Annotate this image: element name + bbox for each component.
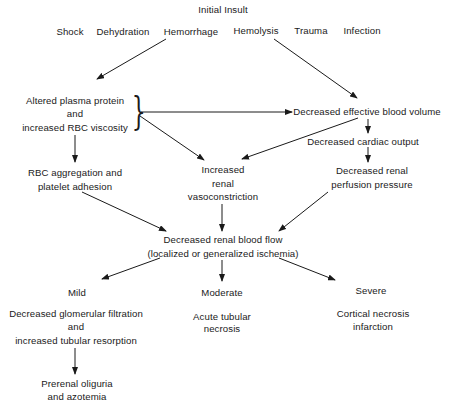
node-line: increased RBC viscosity: [22, 121, 128, 134]
node-line: platelet adhesion: [38, 180, 112, 193]
node-line: Decreased glomerular filtration: [9, 307, 143, 320]
node-decreased-cardiac-output: Decreased cardiac output: [307, 135, 419, 148]
node-line: Increased: [201, 163, 244, 176]
severity-mild: Mild: [68, 286, 86, 299]
node-line: and azotemia: [48, 390, 107, 403]
diagram-title: Initial Insult: [198, 3, 247, 16]
severity-severe: Severe: [356, 284, 387, 297]
node-line: Prerenal oliguria: [41, 377, 113, 390]
node-line: infarction: [353, 320, 393, 333]
cause-hemolysis: Hemolysis: [233, 24, 278, 37]
node-line: vasoconstriction: [188, 190, 258, 203]
node-line: necrosis: [204, 322, 241, 335]
node-line: and: [68, 320, 84, 333]
cause-infection: Infection: [343, 24, 380, 37]
severity-moderate: Moderate: [201, 286, 242, 299]
node-line: and: [67, 107, 83, 120]
brace-icon: }: [132, 90, 146, 130]
node-line: (localized or generalized ischemia): [147, 247, 298, 260]
node-line: Altered plasma protein: [26, 94, 124, 107]
cause-trauma: Trauma: [294, 24, 327, 37]
node-line: increased tubular resorption: [15, 334, 137, 347]
cause-shock: Shock: [56, 25, 83, 38]
node-line: Decreased renal blood flow: [164, 233, 283, 246]
node-line: RBC aggregation and: [28, 166, 122, 179]
node-line: Cortical necrosis: [337, 307, 410, 320]
cause-hemorrhage: Hemorrhage: [164, 25, 218, 38]
node-decreased-effective-blood-volume: Decreased effective blood volume: [293, 105, 441, 118]
cause-dehydration: Dehydration: [97, 25, 150, 38]
node-line: Decreased renal: [336, 164, 408, 177]
node-line: perfusion pressure: [331, 178, 412, 191]
node-line: renal: [212, 177, 234, 190]
